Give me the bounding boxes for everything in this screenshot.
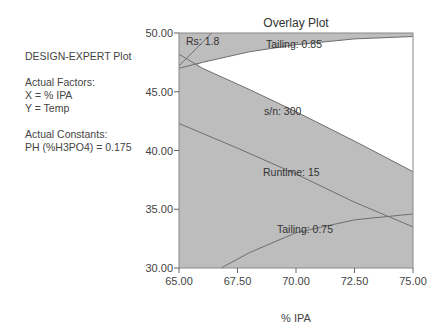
x-tick-label: 72.50 xyxy=(341,275,369,287)
y-tick-label: 45.00 xyxy=(145,86,173,98)
x-tick-label: 67.50 xyxy=(224,275,252,287)
y-tick-label: 30.00 xyxy=(145,262,173,274)
overlay-plot: Overlay Plot Rs: 1.8Tailing: 0.85s/n: 30… xyxy=(0,0,446,333)
contour-label: s/n: 300 xyxy=(264,105,302,117)
chart-title: Overlay Plot xyxy=(263,16,329,30)
plot-area: Rs: 1.8Tailing: 0.85s/n: 300Runtime: 15T… xyxy=(179,33,413,268)
x-tick-label: 70.00 xyxy=(282,275,310,287)
contour-label: Tailing: 0.75 xyxy=(277,223,333,235)
y-tick-label: 50.00 xyxy=(145,27,173,39)
x-tick-label: 65.00 xyxy=(165,275,193,287)
x-axis-label: % IPA xyxy=(281,312,311,324)
x-tick-label: 75.00 xyxy=(399,275,427,287)
y-tick-label: 40.00 xyxy=(145,145,173,157)
contour-label: Tailing: 0.85 xyxy=(266,38,322,50)
y-tick-label: 35.00 xyxy=(145,203,173,215)
contour-label: Rs: 1.8 xyxy=(186,35,219,47)
contour-label: Runtime: 15 xyxy=(263,166,320,178)
